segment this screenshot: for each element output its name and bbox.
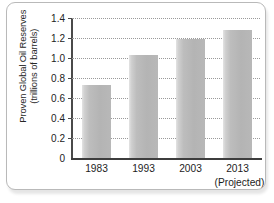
bar (223, 30, 252, 158)
bar (82, 85, 111, 158)
y-tick-mark (68, 118, 73, 119)
y-axis-title-line-2: (trillions of barrels) (28, 2, 39, 141)
y-tick-mark (68, 18, 73, 19)
y-tick-label: 0.2 (51, 133, 65, 144)
x-tick-label: 1993 (132, 163, 155, 174)
y-axis-title-line-1: Proven Global Oil Reserves (17, 2, 28, 141)
x-axis-line (71, 158, 262, 160)
x-tick-label: 2003 (179, 163, 202, 174)
x-tick-label: 2013 (226, 163, 249, 174)
y-tick-label: 1.4 (51, 13, 65, 24)
y-tick-mark (68, 98, 73, 99)
y-tick-mark (68, 78, 73, 79)
x-tick-sublabel: (Projected) (215, 177, 265, 188)
y-tick-label: 0.8 (51, 73, 65, 84)
gridline (72, 18, 260, 19)
x-tick-label: 1983 (85, 163, 108, 174)
y-tick-mark (68, 138, 73, 139)
y-tick-label: 0 (59, 153, 65, 164)
chart-figure-card: Proven Global Oil Reserves (trillions of… (6, 2, 266, 190)
y-tick-mark (68, 58, 73, 59)
y-tick-mark (68, 38, 73, 39)
y-tick-label: 1.2 (51, 33, 65, 44)
y-tick-label: 1.0 (51, 53, 65, 64)
y-axis-title: Proven Global Oil Reserves (trillions of… (17, 2, 39, 141)
y-tick-label: 0.4 (51, 113, 65, 124)
plot-area: 00.20.40.60.81.01.21.4 1983199320032013(… (71, 16, 259, 158)
y-tick-label: 0.6 (51, 93, 65, 104)
bar (129, 55, 158, 158)
bar (176, 39, 205, 158)
